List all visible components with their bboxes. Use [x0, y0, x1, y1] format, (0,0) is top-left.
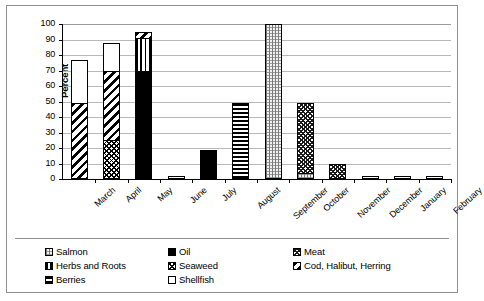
y-axis-tick-mark: [59, 86, 63, 87]
bar-segment-shellfish: [103, 43, 120, 71]
x-axis-tick-mark: [257, 179, 258, 183]
y-axis-tick-label: 40: [15, 112, 55, 121]
bar-january: [394, 176, 411, 179]
y-axis-tick-mark: [59, 71, 63, 72]
bar-october: [297, 103, 314, 179]
gridline: [63, 148, 451, 149]
chart-legend: SalmonHerbs and RootsBerriesOilSeaweedSh…: [15, 238, 449, 287]
gridline: [63, 117, 451, 118]
y-axis-tick-label: 60: [15, 81, 55, 90]
legend-item-berries[interactable]: Berries: [45, 273, 126, 286]
y-axis-tick-label: 10: [15, 159, 55, 168]
legend-label: Shellfish: [179, 275, 214, 285]
legend-item-salmon[interactable]: Salmon: [45, 245, 126, 258]
legend-label: Salmon: [56, 247, 88, 257]
bar-september: [265, 24, 282, 179]
y-axis-tick-mark: [59, 133, 63, 134]
x-axis-tick-label-march: March: [92, 185, 117, 209]
legend-item-herbs-and-roots[interactable]: Herbs and Roots: [45, 259, 126, 272]
y-axis-tick-label: 90: [15, 35, 55, 44]
bar-segment-cod-halibut-herring: [103, 71, 120, 141]
legend-label: Berries: [56, 275, 85, 285]
x-axis-tick-label-may: May: [155, 185, 174, 204]
y-axis-title: Percent: [59, 64, 70, 98]
chart-figure: Percent 0102030405060708090100 MarchApri…: [6, 5, 458, 293]
bar-april: [103, 43, 120, 179]
legend-label: Seaweed: [179, 261, 218, 271]
legend-swatch-icon: [168, 262, 176, 270]
x-axis-tick-label-june: June: [188, 185, 209, 205]
x-axis-tick-label-august: August: [255, 185, 282, 211]
bar-segment-shellfish: [394, 176, 411, 179]
y-axis-tick-label: 80: [15, 50, 55, 59]
gridline: [63, 40, 451, 41]
bar-july: [200, 150, 217, 179]
gridline: [63, 24, 451, 25]
x-axis-tick-label-july: July: [220, 185, 238, 203]
bar-march: [71, 60, 88, 179]
legend-item-seaweed[interactable]: Seaweed: [168, 259, 218, 272]
x-axis-tick-mark: [354, 179, 355, 183]
legend-swatch-icon: [45, 262, 53, 270]
x-axis-tick-mark: [160, 179, 161, 183]
y-axis-tick-mark: [59, 102, 63, 103]
y-axis-tick-mark: [59, 179, 63, 180]
plot-area: Percent 0102030405060708090100 MarchApri…: [62, 24, 451, 180]
bar-segment-berries: [232, 103, 249, 179]
legend-swatch-icon: [45, 276, 53, 284]
gridline: [63, 164, 451, 165]
x-axis-tick-label-february: February: [451, 185, 484, 216]
gridline: [63, 102, 451, 103]
x-axis-tick-mark: [95, 179, 96, 183]
x-axis-tick-mark: [128, 179, 129, 183]
y-axis-tick-label: 30: [15, 128, 55, 137]
legend-label: Herbs and Roots: [56, 261, 126, 271]
bar-december: [362, 176, 379, 179]
legend-swatch-icon: [168, 248, 176, 256]
bar-segment-seaweed: [103, 140, 120, 179]
legend-item-cod-halibut-herring[interactable]: Cod, Halibut, Herring: [293, 259, 391, 272]
legend-swatch-icon: [168, 276, 176, 284]
gridline: [63, 71, 451, 72]
gridline: [63, 86, 451, 87]
bar-segment-herbs-and-roots: [135, 38, 152, 71]
legend-item-oil[interactable]: Oil: [168, 245, 218, 258]
legend-label: Meat: [304, 247, 325, 257]
y-axis-tick-mark: [59, 40, 63, 41]
bar-segment-shellfish: [426, 176, 443, 179]
bar-segment-cod-halibut-herring: [71, 103, 88, 179]
x-axis-tick-mark: [289, 179, 290, 183]
y-axis-tick-mark: [59, 148, 63, 149]
bar-segment-meat: [329, 164, 346, 180]
bar-may: [135, 32, 152, 179]
bar-segment-cod-halibut-herring: [135, 32, 152, 38]
legend-item-shellfish[interactable]: Shellfish: [168, 273, 218, 286]
legend-column: OilSeaweedShellfish: [168, 245, 218, 287]
bar-segment-shellfish: [71, 60, 88, 103]
bar-segment-oil: [135, 71, 152, 180]
bar-segment-salmon: [265, 24, 282, 179]
y-axis-tick-label: 20: [15, 143, 55, 152]
bar-november: [329, 164, 346, 180]
y-axis-tick-label: 100: [15, 19, 55, 28]
gridline: [63, 55, 451, 56]
y-axis-tick-label: 70: [15, 66, 55, 75]
bar-august: [232, 103, 249, 179]
y-axis-tick-label: 50: [15, 97, 55, 106]
x-axis-tick-label-november: November: [355, 185, 392, 220]
bar-segment-salmon: [297, 173, 314, 179]
bar-segment-shellfish: [168, 176, 185, 179]
legend-swatch-icon: [293, 262, 301, 270]
x-axis-tick-label-april: April: [123, 185, 143, 204]
bar-segment-meat: [297, 103, 314, 173]
y-axis-tick-mark: [59, 24, 63, 25]
x-axis-tick-mark: [386, 179, 387, 183]
legend-label: Oil: [179, 247, 190, 257]
bar-june: [168, 176, 185, 179]
legend-item-meat[interactable]: Meat: [293, 245, 391, 258]
x-axis-tick-mark: [419, 179, 420, 183]
x-axis-tick-mark: [225, 179, 226, 183]
x-axis-tick-mark: [322, 179, 323, 183]
legend-column: MeatCod, Halibut, Herring: [293, 245, 391, 273]
y-axis-tick-mark: [59, 117, 63, 118]
